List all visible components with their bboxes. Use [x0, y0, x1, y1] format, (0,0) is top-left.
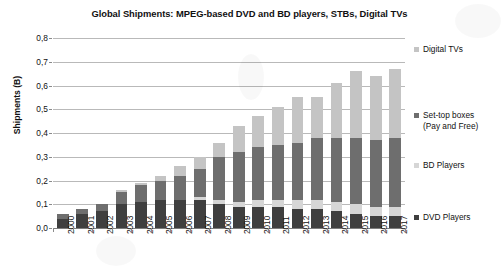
legend-swatch-icon [414, 163, 419, 168]
legend-label: Digital TVs [423, 44, 463, 55]
bar-column [331, 83, 343, 228]
legend-swatch-icon [414, 215, 419, 220]
bar-segment [233, 152, 245, 202]
plot-area: 0,00,10,20,30,40,50,60,70,8 [53, 38, 405, 228]
y-axis-tick [49, 86, 52, 87]
x-axis-tick [73, 228, 74, 232]
bar-column [272, 107, 284, 228]
x-axis-tick [170, 228, 171, 232]
bar-segment [370, 76, 382, 140]
bar-segment [194, 157, 206, 169]
bar-column [233, 126, 245, 228]
bar-segment [272, 200, 284, 207]
x-axis-tick [131, 228, 132, 232]
bars-layer [53, 38, 405, 228]
legend-item[interactable]: Set-top boxes(Pay and Free) [414, 110, 478, 131]
y-axis-tick [49, 38, 52, 39]
bar-segment [292, 97, 304, 142]
legend-label: BD Players [423, 160, 465, 171]
y-axis-tick-label: 0,2 [36, 176, 48, 186]
y-axis-tick-label: 0,3 [36, 152, 48, 162]
x-axis-tick-label: 2013 [321, 216, 331, 234]
y-axis-tick-label: 0,8 [36, 33, 48, 43]
bar-segment [135, 185, 147, 202]
y-axis-tick-label: 0,0 [36, 223, 48, 233]
bar-segment [311, 97, 323, 137]
bar-segment [174, 166, 186, 176]
y-axis-tick-label: 0,6 [36, 81, 48, 91]
bar-column [292, 97, 304, 228]
x-axis-tick [53, 228, 54, 232]
x-axis-tick-label: 2005 [164, 216, 174, 234]
chart-title: Global Shipments: MPEG-based DVD and BD … [0, 8, 499, 19]
x-axis-tick [385, 228, 386, 232]
y-axis-tick [49, 109, 52, 110]
bar-segment [252, 200, 264, 207]
legend-label: Set-top boxes(Pay and Free) [423, 110, 478, 131]
y-axis-tick [49, 228, 52, 229]
y-axis-tick [49, 157, 52, 158]
x-axis-tick-label: 2003 [125, 216, 135, 234]
x-axis-tick-label: 2008 [223, 216, 233, 234]
bar-segment [272, 107, 284, 145]
x-axis-tick [112, 228, 113, 232]
x-axis-tick [209, 228, 210, 232]
x-axis-tick [92, 228, 93, 232]
bar-segment [350, 204, 362, 214]
bar-segment [331, 202, 343, 212]
bar-segment [370, 207, 382, 217]
x-axis-tick-label: 2010 [262, 216, 272, 234]
bar-segment [213, 143, 225, 157]
chart-legend: Digital TVsSet-top boxes(Pay and Free)BD… [414, 38, 499, 228]
bar-segment [389, 69, 401, 138]
x-axis-tick-label: 2009 [242, 216, 252, 234]
y-axis-tick [49, 62, 52, 63]
x-axis-tick-label: 2001 [86, 216, 96, 234]
x-axis-tick-label: 2012 [301, 216, 311, 234]
legend-swatch-icon [414, 113, 419, 118]
y-axis-tick-label: 0,7 [36, 57, 48, 67]
legend-item[interactable]: DVD Players [414, 212, 471, 223]
x-axis-tick-label: 2015 [360, 216, 370, 234]
x-axis-tick-label: 2002 [105, 216, 115, 234]
x-axis-tick-label: 2011 [281, 216, 291, 234]
bar-segment [311, 200, 323, 210]
bar-segment [370, 140, 382, 207]
legend-item[interactable]: Digital TVs [414, 44, 463, 55]
bar-segment [194, 169, 206, 198]
bar-segment [252, 147, 264, 199]
bar-segment [252, 116, 264, 147]
x-axis-tick-label: 2014 [340, 216, 350, 234]
x-axis-tick [366, 228, 367, 232]
bar-segment [350, 138, 362, 205]
x-axis-tick [307, 228, 308, 232]
bar-segment [213, 157, 225, 200]
bar-segment [292, 200, 304, 210]
x-axis-tick-label: 2004 [145, 216, 155, 234]
x-axis-tick-label: 2007 [203, 216, 213, 234]
bar-segment [331, 83, 343, 138]
scan-artifact [96, 236, 136, 266]
x-axis-tick-label: 2016 [379, 216, 389, 234]
bar-segment [292, 143, 304, 200]
bar-segment [331, 138, 343, 202]
x-axis-tick [346, 228, 347, 232]
bar-column [389, 69, 401, 228]
bar-segment [389, 207, 401, 217]
legend-item[interactable]: BD Players [414, 160, 465, 171]
x-axis-tick-label: 2017 [399, 216, 409, 234]
x-axis-tick [151, 228, 152, 232]
x-axis-tick-label: 2006 [184, 216, 194, 234]
bar-column [311, 97, 323, 228]
bar-segment [389, 138, 401, 207]
legend-swatch-icon [414, 47, 419, 52]
bar-segment [174, 176, 186, 200]
legend-label: DVD Players [423, 212, 471, 223]
y-axis-tick-label: 0,1 [36, 199, 48, 209]
x-axis-tick [288, 228, 289, 232]
x-axis-tick-label: 2000 [66, 216, 76, 234]
bar-segment [350, 71, 362, 138]
y-axis-tick [49, 181, 52, 182]
bar-column [350, 71, 362, 228]
